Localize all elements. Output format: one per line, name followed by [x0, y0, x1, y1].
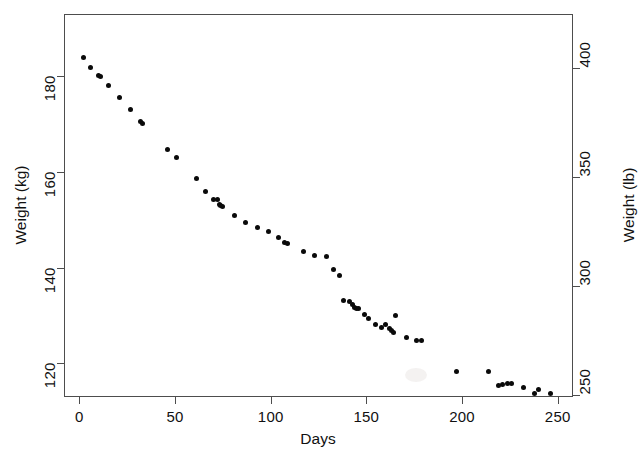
y-axis-left-tick-label: 160	[42, 171, 59, 197]
y-axis-left-tick-label: 120	[42, 363, 59, 389]
y-axis-right-tick-label: 350	[576, 151, 593, 177]
axis-tick	[573, 395, 580, 396]
y-axis-left-title: Weight (kg)	[12, 166, 30, 245]
y-axis-left-tick-label: 180	[42, 76, 59, 102]
axis-tick	[573, 68, 580, 69]
axis-tick	[573, 177, 580, 178]
axis-tick	[462, 397, 463, 404]
y-axis-right-tick-label: 250	[576, 369, 593, 395]
axis-tick	[558, 397, 559, 404]
y-axis-left-tick-label: 140	[42, 267, 59, 293]
x-axis-tick-label: 250	[545, 408, 571, 425]
y-axis-right-tick-label: 300	[576, 260, 593, 286]
x-axis-tick-label: 200	[449, 408, 475, 425]
x-axis-tick-label: 50	[166, 408, 183, 425]
x-axis-title: Days	[300, 430, 335, 448]
x-axis-tick-label: 150	[354, 408, 380, 425]
x-axis-tick-label: 100	[258, 408, 284, 425]
axis-tick	[271, 397, 272, 404]
axis-tick	[573, 286, 580, 287]
axis-tick	[366, 397, 367, 404]
axis-tick	[79, 397, 80, 404]
weight-loss-scatter-chart: Weight (kg) Weight (lb) Days 12014016018…	[0, 0, 644, 462]
page-smudge	[405, 368, 427, 382]
axis-tick	[175, 397, 176, 404]
y-axis-right-tick-label: 400	[576, 42, 593, 68]
y-axis-right-title: Weight (lb)	[620, 168, 638, 243]
plot-area	[64, 14, 573, 397]
x-axis-tick-label: 0	[75, 408, 84, 425]
